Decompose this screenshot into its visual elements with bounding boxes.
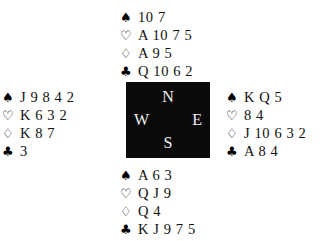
hand-west-hearts-row: ♡ K 6 3 2 <box>2 106 75 124</box>
hand-south: ♠ A 6 3 ♡ Q J 9 ♢ Q 4 ♣ K J 9 7 5 <box>120 166 196 238</box>
hand-east-hearts-row: ♡ 8 4 <box>226 106 306 124</box>
club-icon: ♣ <box>226 143 244 161</box>
heart-icon: ♡ <box>120 27 138 45</box>
hand-north-diamonds: A 9 5 <box>138 44 172 62</box>
hand-east-diamonds-row: ♢ J 10 6 3 2 <box>226 124 306 142</box>
club-icon: ♣ <box>120 221 138 239</box>
diamond-icon: ♢ <box>120 203 138 221</box>
compass-south-label: S <box>126 135 210 151</box>
hand-west-diamonds-row: ♢ K 8 7 <box>2 124 75 142</box>
hand-east-clubs: A 8 4 <box>244 142 278 160</box>
spade-icon: ♠ <box>2 89 20 107</box>
hand-west: ♠ J 9 8 4 2 ♡ K 6 3 2 ♢ K 8 7 ♣ 3 <box>2 88 75 160</box>
hand-west-hearts: K 6 3 2 <box>20 106 67 124</box>
club-icon: ♣ <box>120 63 138 81</box>
hand-east-clubs-row: ♣ A 8 4 <box>226 142 306 160</box>
hand-south-diamonds: Q 4 <box>138 202 161 220</box>
hand-north-clubs-row: ♣ Q 10 6 2 <box>120 62 193 80</box>
hand-east-hearts: 8 4 <box>244 106 264 124</box>
hand-south-spades: A 6 3 <box>138 166 172 184</box>
hand-north-clubs: Q 10 6 2 <box>138 62 193 80</box>
hand-south-diamonds-row: ♢ Q 4 <box>120 202 196 220</box>
spade-icon: ♠ <box>226 89 244 107</box>
hand-north-hearts-row: ♡ A 10 7 5 <box>120 26 193 44</box>
diamond-icon: ♢ <box>2 125 20 143</box>
heart-icon: ♡ <box>120 185 138 203</box>
hand-south-hearts: Q J 9 <box>138 184 172 202</box>
heart-icon: ♡ <box>2 107 20 125</box>
hand-south-clubs-row: ♣ K J 9 7 5 <box>120 220 196 238</box>
hand-west-spades: J 9 8 4 2 <box>20 88 75 106</box>
compass-west-label: W <box>134 112 149 128</box>
hand-east: ♠ K Q 5 ♡ 8 4 ♢ J 10 6 3 2 ♣ A 8 4 <box>226 88 306 160</box>
spade-icon: ♠ <box>120 9 138 27</box>
club-icon: ♣ <box>2 143 20 161</box>
compass-east-label: E <box>192 112 202 128</box>
bridge-hand-diagram: ♠ 10 7 ♡ A 10 7 5 ♢ A 9 5 ♣ Q 10 6 2 ♠ J… <box>0 0 322 241</box>
hand-west-spades-row: ♠ J 9 8 4 2 <box>2 88 75 106</box>
compass-north-label: N <box>126 89 210 105</box>
hand-south-clubs: K J 9 7 5 <box>138 220 196 238</box>
hand-north: ♠ 10 7 ♡ A 10 7 5 ♢ A 9 5 ♣ Q 10 6 2 <box>120 8 193 80</box>
compass-box: N W E S <box>126 82 210 158</box>
hand-north-spades-row: ♠ 10 7 <box>120 8 193 26</box>
hand-north-hearts: A 10 7 5 <box>138 26 192 44</box>
diamond-icon: ♢ <box>226 125 244 143</box>
hand-east-diamonds: J 10 6 3 2 <box>244 124 306 142</box>
hand-west-diamonds: K 8 7 <box>20 124 55 142</box>
hand-south-hearts-row: ♡ Q J 9 <box>120 184 196 202</box>
hand-west-clubs-row: ♣ 3 <box>2 142 75 160</box>
hand-east-spades: K Q 5 <box>244 88 282 106</box>
spade-icon: ♠ <box>120 167 138 185</box>
hand-east-spades-row: ♠ K Q 5 <box>226 88 306 106</box>
hand-south-spades-row: ♠ A 6 3 <box>120 166 196 184</box>
hand-north-diamonds-row: ♢ A 9 5 <box>120 44 193 62</box>
hand-west-clubs: 3 <box>20 142 28 160</box>
hand-north-spades: 10 7 <box>138 8 166 26</box>
diamond-icon: ♢ <box>120 45 138 63</box>
heart-icon: ♡ <box>226 107 244 125</box>
